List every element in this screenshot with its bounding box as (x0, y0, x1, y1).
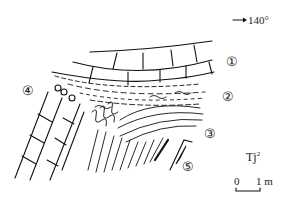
layer-label-1: ① (226, 56, 238, 68)
sketch-drawing (0, 0, 283, 209)
scale-start: 0 (234, 175, 240, 187)
layer-4-limestone-block (15, 85, 84, 180)
formation-label: Tj2 (246, 148, 260, 163)
azimuth-label: 140° (248, 14, 269, 26)
layer-label-2: ② (222, 91, 234, 103)
geological-sketch: 140° ① ② ③ ④ ⑤ Tj2 0 1 m (0, 0, 283, 209)
layer-label-3: ③ (204, 128, 216, 140)
layer-label-4: ④ (22, 85, 34, 97)
scale-end: 1 m (256, 175, 273, 187)
right-arrow-icon (233, 18, 247, 23)
formation-text: Tj (246, 150, 257, 164)
layer-label-5: ⑤ (182, 161, 194, 173)
formation-superscript: 2 (257, 150, 261, 158)
layer-1-limestone (52, 41, 214, 85)
scale-bar (236, 188, 260, 191)
